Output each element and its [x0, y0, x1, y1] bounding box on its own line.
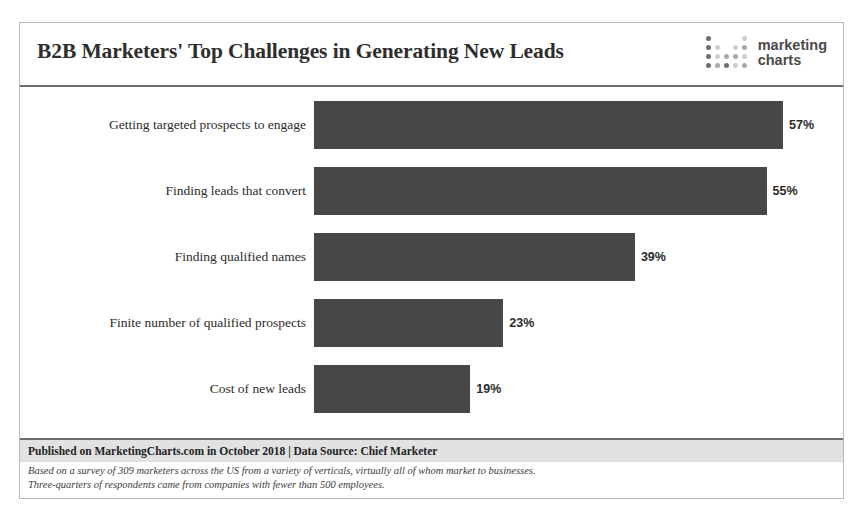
footer-published-text: Published on MarketingCharts.com in Octo…: [20, 445, 437, 457]
bar: [314, 167, 767, 215]
bar: [314, 101, 783, 149]
chart-header: B2B Marketers' Top Challenges in Generat…: [20, 23, 843, 87]
bar-value-label: 39%: [641, 250, 666, 264]
dot-grid-logo-icon: [706, 36, 749, 70]
bar: [314, 233, 635, 281]
bar-category-label: Cost of new leads: [20, 381, 306, 397]
marketingcharts-logo: marketing charts: [706, 36, 827, 70]
page-title: B2B Marketers' Top Challenges in Generat…: [37, 39, 564, 64]
bar-row: Finding qualified names39%: [20, 233, 843, 281]
logo-wordmark: marketing charts: [758, 38, 827, 69]
bar-category-label: Getting targeted prospects to engage: [20, 117, 306, 133]
footer-notes: Based on a survey of 309 marketers acros…: [28, 464, 828, 492]
bar-track: 57%: [314, 101, 843, 149]
bar-track: 23%: [314, 299, 843, 347]
bar-track: 39%: [314, 233, 843, 281]
footer-note-line-1: Based on a survey of 309 marketers acros…: [28, 464, 828, 478]
bar-row: Cost of new leads19%: [20, 365, 843, 413]
bar-category-label: Finding leads that convert: [20, 183, 306, 199]
bar: [314, 365, 470, 413]
bar-value-label: 19%: [476, 382, 501, 396]
bar-row: Finding leads that convert55%: [20, 167, 843, 215]
bar: [314, 299, 503, 347]
bar-row: Finite number of qualified prospects23%: [20, 299, 843, 347]
bar-value-label: 23%: [509, 316, 534, 330]
bar-track: 55%: [314, 167, 843, 215]
bar-track: 19%: [314, 365, 843, 413]
footer-note-line-2: Three-quarters of respondents came from …: [28, 478, 828, 492]
bar-value-label: 55%: [773, 184, 798, 198]
chart-card: B2B Marketers' Top Challenges in Generat…: [19, 22, 844, 499]
bar-category-label: Finite number of qualified prospects: [20, 315, 306, 331]
bar-chart-plot: Getting targeted prospects to engage57%F…: [20, 87, 843, 418]
bar-category-label: Finding qualified names: [20, 249, 306, 265]
logo-line-2: charts: [758, 53, 827, 69]
logo-line-1: marketing: [758, 38, 827, 54]
bar-row: Getting targeted prospects to engage57%: [20, 101, 843, 149]
footer-source-band: Published on MarketingCharts.com in Octo…: [20, 440, 843, 462]
bar-value-label: 57%: [789, 118, 814, 132]
